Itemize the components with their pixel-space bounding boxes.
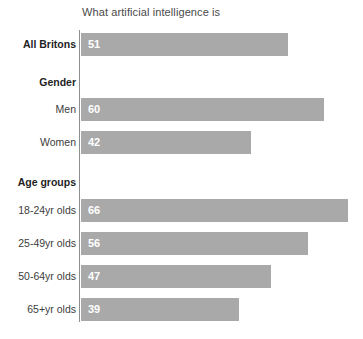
bar-value-label: 66 xyxy=(88,199,100,222)
bar: 56 xyxy=(81,232,308,255)
bar-chart: What artificial intelligence is All Brit… xyxy=(0,0,363,339)
group-heading-label: Age groups xyxy=(18,172,76,192)
bar-value-label: 60 xyxy=(88,98,100,121)
chart-row: Men60 xyxy=(0,98,363,121)
chart-row: 25-49yr olds56 xyxy=(0,232,363,255)
bar: 42 xyxy=(81,131,251,154)
chart-title: What artificial intelligence is xyxy=(82,6,220,18)
chart-row: 18-24yr olds66 xyxy=(0,199,363,222)
bar-value-label: 51 xyxy=(88,33,100,56)
chart-row: 50-64yr olds47 xyxy=(0,265,363,288)
category-label: 25-49yr olds xyxy=(18,232,76,255)
group-heading-row: Age groups xyxy=(0,172,363,192)
group-heading-label: Gender xyxy=(39,72,76,92)
chart-row: 65+yr olds39 xyxy=(0,298,363,321)
group-heading-row: Gender xyxy=(0,72,363,92)
category-label: 18-24yr olds xyxy=(18,199,76,222)
bar-value-label: 47 xyxy=(88,265,100,288)
bar: 47 xyxy=(81,265,271,288)
bar: 39 xyxy=(81,298,239,321)
category-label: Women xyxy=(40,131,76,154)
category-label: 65+yr olds xyxy=(27,298,76,321)
category-label: 50-64yr olds xyxy=(18,265,76,288)
bar-value-label: 42 xyxy=(88,131,100,154)
bar-value-label: 39 xyxy=(88,298,100,321)
chart-row: Women42 xyxy=(0,131,363,154)
bar-value-label: 56 xyxy=(88,232,100,255)
bar: 66 xyxy=(81,199,348,222)
bar: 51 xyxy=(81,33,288,56)
category-label: Men xyxy=(56,98,76,121)
chart-row: All Britons51 xyxy=(0,33,363,56)
category-label: All Britons xyxy=(23,33,76,56)
bar: 60 xyxy=(81,98,324,121)
